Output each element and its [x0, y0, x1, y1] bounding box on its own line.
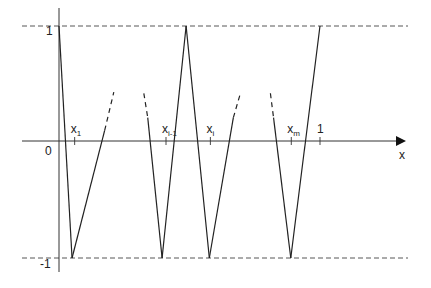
y-tick-label-minus-1: -1 [40, 257, 51, 271]
zigzag-seg-6 [209, 118, 233, 258]
x-tick-label-one: 1 [317, 122, 324, 136]
origin-label: 0 [45, 144, 52, 158]
x-axis-arrow-icon [396, 136, 406, 146]
zigzag-seg-6-dash [233, 93, 240, 117]
zigzag-diagram: x 0 1 -1 x1xi-1xixm1 [0, 0, 431, 288]
zigzag-seg-7 [274, 118, 291, 258]
zigzag-seg-8 [291, 26, 320, 258]
zigzag-seg-1 [59, 26, 72, 258]
x-axis-label: x [399, 148, 405, 162]
zigzag-seg-2 [72, 130, 105, 258]
zigzag-seg-3 [148, 118, 162, 258]
zigzag-seg-7-dash [270, 93, 273, 117]
zigzag-seg-5 [186, 26, 209, 258]
y-tick-label-1: 1 [46, 24, 53, 38]
zigzag-seg-3-dash [144, 93, 148, 117]
zigzag-seg-2-dash [105, 92, 114, 130]
x-tick-label-x-m: xm [287, 122, 300, 138]
x-tick-label-x-i: xi [206, 122, 214, 138]
x-tick-label-x-1: x1 [71, 122, 82, 138]
